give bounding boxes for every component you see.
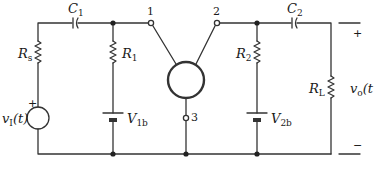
resistor-rs-icon [35, 41, 41, 63]
wire-c2-to-rl [297, 23, 331, 76]
label-rs: Rs [18, 47, 32, 63]
label-c2: C2 [287, 2, 303, 18]
wire-source-to-bottom [38, 129, 331, 154]
terminal-2-label: 2 [213, 6, 220, 17]
output-plus-sign: + [353, 28, 362, 39]
junction-dot [110, 151, 115, 156]
label-r2: R2 [236, 47, 252, 63]
resistor-rl-icon [328, 76, 334, 98]
label-v1b: V1b [127, 112, 148, 128]
terminal-1-label: 1 [147, 6, 154, 17]
voltage-source-vi-icon [27, 107, 49, 129]
wire-t2-to-device [196, 26, 215, 64]
wire-top-left [38, 23, 72, 41]
terminal-2-icon [214, 20, 219, 25]
label-vo: vo(t [350, 82, 373, 98]
battery-v2b-icon [247, 113, 267, 122]
two-port-device-icon [168, 62, 204, 98]
capacitor-c1-icon [73, 18, 78, 28]
label-c1: C1 [68, 2, 84, 18]
label-r1: R1 [122, 47, 138, 63]
junction-dot [254, 151, 259, 156]
resistor-r2-icon [254, 41, 260, 63]
junction-dots [110, 20, 259, 156]
output-minus-sign: − [353, 140, 362, 151]
junction-dot [183, 151, 188, 156]
circuit-diagram: C1 C2 Rs R1 R2 RL V1b V2b vI(t) vo(t 1 2… [0, 0, 374, 172]
junction-dot [110, 20, 115, 25]
junction-dot [254, 20, 259, 25]
label-rl: RL [309, 82, 325, 98]
resistor-r1-icon [110, 41, 116, 63]
battery-v1b-icon [103, 113, 123, 122]
label-v2b: V2b [271, 112, 292, 128]
source-plus-sign: + [28, 98, 37, 109]
label-vi: vI(t) [2, 112, 28, 128]
terminal-3-label: 3 [191, 112, 198, 123]
wire-t1-to-device [153, 26, 176, 64]
terminal-1-icon [148, 20, 153, 25]
terminal-3-icon [183, 115, 188, 120]
capacitor-c2-icon [292, 18, 297, 28]
